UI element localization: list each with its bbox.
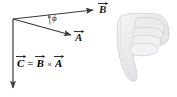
vector-arrow-icon — [97, 1, 108, 5]
equation-a-letter: A — [55, 57, 62, 69]
equation-b-letter: B — [37, 57, 44, 69]
equation-vector-a: A — [55, 57, 62, 69]
thumbs-down-hand-icon — [117, 13, 169, 81]
vector-a-label: A — [75, 32, 82, 43]
vector-arrow-icon — [53, 54, 64, 58]
angle-arc — [49, 14, 51, 24]
vector-arrow-icon — [15, 54, 26, 58]
diagram-canvas — [0, 0, 177, 97]
equation-vector-b: B — [37, 57, 44, 69]
cross-product-equation: C = B × A — [17, 57, 62, 69]
equation-cross-symbol: × — [47, 59, 52, 69]
equation-vector-c: C — [17, 57, 24, 69]
vector-diagram-figure: B A ϕ C = — [0, 0, 177, 97]
vector-b-label: B — [99, 4, 106, 15]
vector-arrow-icon — [73, 29, 84, 33]
equation-c-letter: C — [17, 57, 24, 69]
angle-phi-label: ϕ — [52, 14, 57, 23]
vector-a-line — [13, 19, 71, 35]
equation-equals: = — [27, 57, 33, 69]
vector-arrow-icon — [35, 54, 46, 58]
